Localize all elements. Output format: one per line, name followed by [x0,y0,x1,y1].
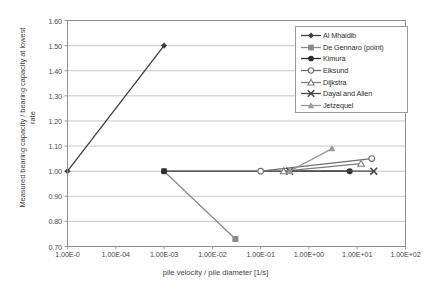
legend-item[interactable]: De Gennaro (point) [300,42,407,54]
legend-item[interactable]: Eiksund [300,65,407,77]
x-tick-label: 1.00E-02 [198,250,226,259]
y-tick-label: 1.60 [28,16,62,25]
x-tick-label: 1.00E+02 [390,250,420,259]
data-point-marker [308,56,314,62]
legend-marker-icon [300,100,322,111]
series-al-mhaidib [64,43,167,175]
chart-legend: Al MhaidibDe Gennaro (point)KimuraEiksun… [295,26,408,113]
x-tick-label: 1.00E+00 [294,250,324,259]
legend-marker-icon [300,30,322,41]
legend-item-label: Dayal and Allen [323,89,372,98]
data-point-marker [258,168,264,174]
legend-item[interactable]: Al Mhaidib [300,30,407,42]
chart-container: 0.700.800.901.001.101.201.301.401.501.60… [0,0,431,290]
data-point-marker [161,168,167,174]
x-tick-label: 1.00E-04 [102,250,130,259]
legend-marker-icon [300,65,322,76]
series-line [290,149,332,172]
data-point-marker [369,156,375,162]
legend-marker-icon [300,88,322,99]
series-line [261,159,372,172]
legend-item-label: Al Mhaidib [323,31,356,40]
series-line [164,171,235,239]
series-de-gennaro-point [161,168,238,242]
legend-marker-icon [300,53,322,64]
legend-item-label: De Gennaro (point) [323,43,384,52]
y-tick-label: 0.80 [28,217,62,226]
y-axis-title: Measured bearing capacity / bearing capa… [18,28,37,208]
legend-marker-icon [300,42,322,53]
x-tick-label: 1.00E-01 [246,250,274,259]
legend-item[interactable]: Jetzequel [300,100,407,112]
data-point-marker [308,45,314,51]
legend-item-label: Eiksund [323,66,348,75]
legend-item[interactable]: Dijkstra [300,76,407,88]
legend-item-label: Dijkstra [323,78,347,87]
data-point-marker [308,68,313,73]
data-point-marker [308,33,314,39]
legend-item[interactable]: Kimura [300,53,407,65]
legend-item-label: Jetzequel [323,101,353,110]
x-tick-label: 1.00E-0 [55,250,79,259]
series-dayal-and-allen [286,168,377,175]
legend-item[interactable]: Dayal and Allen [300,88,407,100]
x-tick-label: 1.00E-03 [150,250,178,259]
legend-item-label: Kimura [323,54,346,63]
series-jetzequel [286,145,335,174]
legend-marker-icon [300,77,322,88]
data-point-marker [232,236,238,242]
x-tick-label: 1.00E+01 [342,250,372,259]
x-axis-title: pile velocity / pile diameter [1/s] [0,268,431,277]
series-line [68,46,165,172]
